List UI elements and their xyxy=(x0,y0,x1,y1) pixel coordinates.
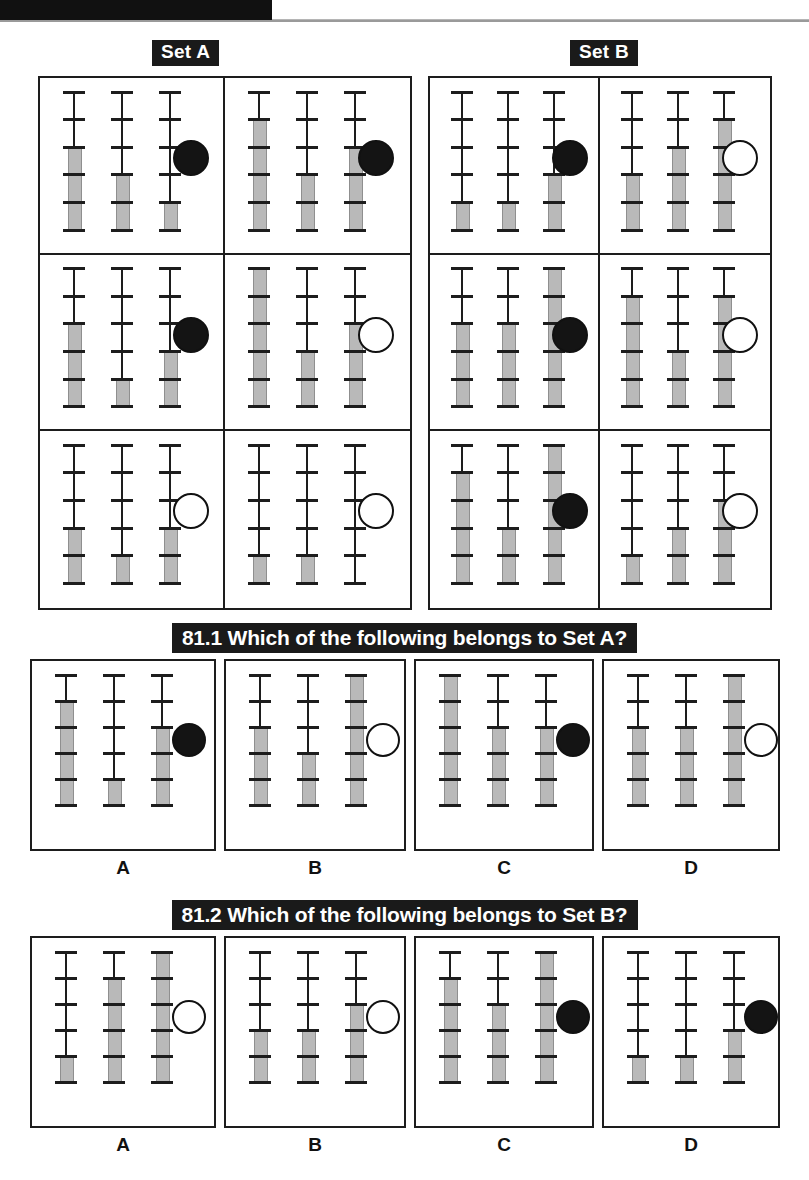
gauge-tick xyxy=(248,582,270,585)
gauge-tick xyxy=(621,173,643,176)
gauge-fill xyxy=(456,324,470,407)
gauge-tick xyxy=(111,118,133,121)
gauge-fill xyxy=(502,324,516,407)
gauge-2 xyxy=(296,675,320,805)
gauge-tick xyxy=(439,1055,461,1058)
gauge-tick xyxy=(621,350,643,353)
gauge-fill xyxy=(540,952,554,1082)
gauge-1 xyxy=(626,952,650,1082)
marker-filled-circle xyxy=(552,317,588,353)
gauge-tick xyxy=(439,977,461,980)
marker-hollow-circle xyxy=(358,317,394,353)
gauge-tick xyxy=(296,378,318,381)
gauge-tick xyxy=(297,674,319,677)
gauge-tick xyxy=(296,527,318,530)
gauge-tick xyxy=(627,1003,649,1006)
gauge-tick xyxy=(497,405,519,408)
gauge-figure xyxy=(40,78,223,253)
marker-filled-circle xyxy=(172,723,206,757)
gauge-fill xyxy=(350,675,364,805)
gauge-tick xyxy=(55,752,77,755)
gauge-tick xyxy=(543,201,565,204)
gauge-tick xyxy=(543,229,565,232)
gauge-tick xyxy=(111,267,133,270)
gauge-tick xyxy=(63,350,85,353)
gauge-tick xyxy=(55,977,77,980)
gauge-figure xyxy=(430,255,598,430)
gauge-tick xyxy=(151,674,173,677)
gauge-tick xyxy=(344,350,366,353)
option-box-c[interactable] xyxy=(414,659,594,851)
gauge-tick xyxy=(535,804,557,807)
set-a-cell-4 xyxy=(225,255,410,432)
gauge-tick xyxy=(621,527,643,530)
gauge-tick xyxy=(344,554,366,557)
gauge-tick xyxy=(111,91,133,94)
gauge-tick xyxy=(621,118,643,121)
gauge-tick xyxy=(451,146,473,149)
gauge-fill xyxy=(156,952,170,1082)
gauge-tick xyxy=(627,804,649,807)
gauge-tick xyxy=(497,229,519,232)
gauge-fill xyxy=(456,202,470,230)
gauge-figure xyxy=(604,661,778,849)
gauge-tick xyxy=(248,471,270,474)
gauge-tick xyxy=(535,1055,557,1058)
option-box-a[interactable] xyxy=(30,936,216,1128)
option-box-b[interactable] xyxy=(224,659,406,851)
gauge-tick xyxy=(248,118,270,121)
gauge-tick xyxy=(675,804,697,807)
gauge-group xyxy=(248,675,368,805)
gauge-tick xyxy=(675,700,697,703)
gauge-tick xyxy=(535,726,557,729)
gauge-group xyxy=(62,445,182,583)
gauge-tick xyxy=(296,322,318,325)
gauge-fill xyxy=(350,1004,364,1082)
gauge-1 xyxy=(620,269,644,407)
set-b-cell-3 xyxy=(430,255,600,432)
gauge-tick xyxy=(111,527,133,530)
gauge-fill xyxy=(672,147,686,230)
marker-hollow-circle xyxy=(722,140,758,176)
gauge-tick xyxy=(451,444,473,447)
gauge-fill xyxy=(492,727,506,805)
gauge-1 xyxy=(247,269,271,407)
gauge-tick xyxy=(439,778,461,781)
gauge-group xyxy=(247,269,367,407)
gauge-tick xyxy=(249,1081,271,1084)
gauge-tick xyxy=(111,201,133,204)
gauge-figure xyxy=(416,661,592,849)
gauge-tick xyxy=(248,527,270,530)
gauge-figure xyxy=(225,255,410,430)
gauge-tick xyxy=(713,405,735,408)
gauge-tick xyxy=(667,229,689,232)
marker-hollow-circle xyxy=(722,317,758,353)
gauge-tick xyxy=(439,726,461,729)
option-label-b: B xyxy=(224,1134,406,1156)
option-box-c[interactable] xyxy=(414,936,594,1128)
gauge-2 xyxy=(496,92,520,230)
option-box-d[interactable] xyxy=(602,659,780,851)
gauge-2 xyxy=(110,269,134,407)
gauge-tick xyxy=(344,295,366,298)
gauge-tick xyxy=(111,146,133,149)
gauge-tick xyxy=(487,977,509,980)
option-box-a[interactable] xyxy=(30,659,216,851)
gauge-1 xyxy=(247,445,271,583)
question-1-text: 81.1 Which of the following belongs to S… xyxy=(172,623,637,653)
gauge-tick xyxy=(627,674,649,677)
gauge-tick xyxy=(296,444,318,447)
option-box-d[interactable] xyxy=(602,936,780,1128)
gauge-tick xyxy=(151,977,173,980)
gauge-tick xyxy=(296,173,318,176)
gauge-tick xyxy=(344,582,366,585)
gauge-tick xyxy=(248,444,270,447)
gauge-figure xyxy=(32,661,214,849)
gauge-tick xyxy=(63,527,85,530)
gauge-tick xyxy=(667,554,689,557)
gauge-tick xyxy=(451,118,473,121)
gauge-tick xyxy=(497,582,519,585)
option-box-b[interactable] xyxy=(224,936,406,1128)
gauge-tick xyxy=(667,471,689,474)
gauge-tick xyxy=(297,804,319,807)
